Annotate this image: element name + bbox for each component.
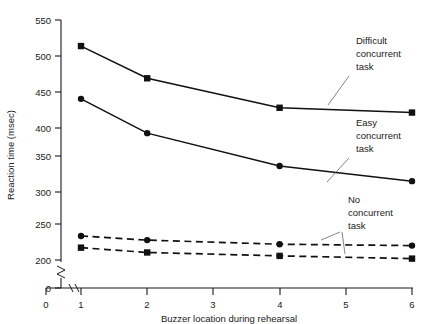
series-markers-no-concurrent-task-lower bbox=[78, 244, 415, 261]
data-point-circle bbox=[78, 233, 84, 239]
annotation-easy-line1: Easy bbox=[356, 117, 377, 128]
x-tick-label-3: 3 bbox=[210, 299, 215, 310]
data-point-square bbox=[144, 249, 150, 255]
annotation-difficult-line1: Difficult bbox=[356, 35, 387, 46]
x-axis bbox=[46, 284, 413, 292]
x-tick-group bbox=[46, 288, 412, 295]
data-point-square bbox=[144, 75, 150, 81]
annotation-none-line1: No bbox=[348, 194, 360, 205]
data-point-circle bbox=[276, 241, 282, 247]
annotation-easy-line3: task bbox=[356, 143, 374, 154]
reaction-time-line-chart: 550 500 450 400 350 300 250 200 0 0 1 2 … bbox=[0, 0, 429, 324]
leader-line-none-lower bbox=[342, 232, 345, 254]
y-tick-label-450: 450 bbox=[35, 87, 51, 98]
x-tick-labels: 0 1 2 3 4 5 6 bbox=[43, 299, 414, 310]
y-tick-group bbox=[55, 20, 61, 288]
annotation-difficult-line3: task bbox=[356, 61, 374, 72]
data-point-square bbox=[78, 43, 84, 49]
data-point-square bbox=[276, 105, 282, 111]
data-point-circle bbox=[276, 163, 282, 169]
y-tick-label-250: 250 bbox=[35, 219, 51, 230]
y-tick-label-350: 350 bbox=[35, 151, 51, 162]
data-point-circle bbox=[409, 178, 415, 184]
y-tick-label-200: 200 bbox=[35, 255, 51, 266]
series-markers-no-concurrent-task-upper bbox=[78, 233, 415, 249]
annotation-difficult-line2: concurrent bbox=[356, 48, 401, 59]
leader-line-difficult bbox=[328, 76, 349, 105]
chart-canvas: 550 500 450 400 350 300 250 200 0 0 1 2 … bbox=[0, 0, 429, 324]
data-point-circle bbox=[144, 237, 150, 243]
y-axis-break-icon bbox=[57, 266, 65, 278]
x-tick-label-1: 1 bbox=[78, 299, 83, 310]
data-point-square bbox=[409, 255, 415, 261]
y-tick-label-300: 300 bbox=[35, 187, 51, 198]
annotation-none-line3: task bbox=[348, 220, 366, 231]
annotation-easy-line2: concurrent bbox=[356, 130, 401, 141]
x-tick-label-6: 6 bbox=[409, 299, 414, 310]
y-tick-labels: 550 500 450 400 350 300 250 200 0 bbox=[35, 15, 51, 294]
data-point-circle bbox=[144, 130, 150, 136]
series-line-no-concurrent-task-lower bbox=[81, 248, 412, 259]
y-tick-label-550: 550 bbox=[35, 15, 51, 26]
data-point-circle bbox=[78, 96, 84, 102]
y-axis bbox=[57, 20, 65, 288]
y-tick-label-400: 400 bbox=[35, 123, 51, 134]
x-axis-title: Buzzer location during rehearsal bbox=[161, 313, 297, 324]
annotation-none-line2: concurrent bbox=[348, 207, 393, 218]
x-tick-label-2: 2 bbox=[144, 299, 149, 310]
x-tick-label-4: 4 bbox=[277, 299, 282, 310]
y-axis-title: Reaction time (msec) bbox=[5, 110, 16, 200]
data-point-square bbox=[78, 244, 84, 250]
data-point-circle bbox=[409, 242, 415, 248]
series-line-no-concurrent-task-upper bbox=[81, 236, 412, 246]
data-point-square bbox=[276, 253, 282, 259]
leader-line-none-upper bbox=[321, 232, 340, 240]
y-tick-label-500: 500 bbox=[35, 51, 51, 62]
leader-line-easy bbox=[327, 158, 349, 182]
annotation-difficult-concurrent-task: Difficult concurrent task bbox=[328, 35, 401, 105]
x-tick-label-5: 5 bbox=[343, 299, 348, 310]
data-point-square bbox=[409, 109, 415, 115]
x-tick-label-0: 0 bbox=[43, 299, 48, 310]
